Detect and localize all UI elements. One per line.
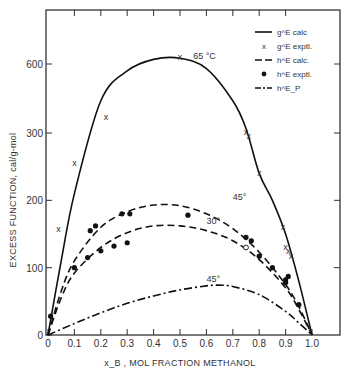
x-tick-label: 1.0 bbox=[305, 338, 319, 349]
dot-marker bbox=[249, 238, 254, 243]
curve-annotation: 65 °C bbox=[193, 51, 216, 61]
x-tick-label: 0.4 bbox=[147, 338, 161, 349]
x-tick-label: 0.3 bbox=[120, 338, 134, 349]
y-axis-label: EXCESS FUNCTION, cal/g-mol bbox=[8, 133, 18, 268]
curve-annotation: 45° bbox=[233, 192, 247, 202]
x-axis-label: x_B , MOL FRACTION METHANOL bbox=[104, 358, 255, 368]
legend-item-label: h^E calc. bbox=[277, 56, 309, 65]
dot-marker bbox=[185, 213, 190, 218]
x-marker: x bbox=[246, 131, 251, 141]
dot-marker bbox=[48, 314, 53, 319]
series-line bbox=[48, 57, 312, 335]
x-marker: x bbox=[257, 168, 262, 178]
curve-annotation: 45° bbox=[206, 274, 220, 284]
legend: g^E calcxg^E exptl.h^E calc.h^E exptl.h^… bbox=[255, 28, 312, 93]
legend-item-label: h^E exptl. bbox=[277, 70, 312, 79]
x-tick-label: 0.9 bbox=[279, 338, 293, 349]
dot-marker bbox=[93, 223, 98, 228]
y-tick-label: 600 bbox=[26, 59, 43, 70]
dot-marker bbox=[286, 274, 291, 279]
legend-item-label: h^E_P bbox=[277, 84, 300, 93]
open-circle-marker bbox=[244, 245, 249, 250]
x-marker: x bbox=[289, 251, 294, 261]
dot-marker bbox=[243, 235, 248, 240]
x-marker: x bbox=[104, 112, 109, 122]
series-layer: xxxxxxxxxxx bbox=[48, 52, 312, 335]
dot-marker bbox=[85, 255, 90, 260]
annotations: 65 °C45°30°45° bbox=[193, 51, 247, 284]
dot-marker bbox=[98, 248, 103, 253]
x-tick-label: 0.1 bbox=[67, 338, 81, 349]
dot-marker bbox=[125, 240, 130, 245]
x-tick-label: 0.5 bbox=[173, 338, 187, 349]
dot-marker bbox=[270, 265, 275, 270]
dot-marker bbox=[72, 265, 77, 270]
x-tick-label: 0.7 bbox=[226, 338, 240, 349]
x-marker: x bbox=[56, 224, 61, 234]
svg-text:x: x bbox=[262, 42, 266, 51]
x-tick-label: 0.8 bbox=[252, 338, 266, 349]
dot-marker bbox=[111, 244, 116, 249]
dot-marker bbox=[119, 211, 124, 216]
x-tick-label: 0.6 bbox=[199, 338, 213, 349]
x-marker: x bbox=[281, 222, 286, 232]
dot-marker bbox=[127, 211, 132, 216]
dot-marker bbox=[88, 228, 93, 233]
x-tick-label: 0.2 bbox=[94, 338, 108, 349]
dot-marker bbox=[296, 302, 301, 307]
legend-item-label: g^E exptl. bbox=[277, 42, 312, 51]
curve-annotation: 30° bbox=[206, 216, 220, 226]
excess-function-chart: 00.10.20.30.40.50.60.70.80.91.0 01002003… bbox=[0, 0, 347, 374]
dot-marker bbox=[257, 254, 262, 259]
y-tick-label: 0 bbox=[37, 330, 43, 341]
y-tick-label: 200 bbox=[26, 195, 43, 206]
x-tick-label: 0 bbox=[45, 338, 51, 349]
y-tick-label: 100 bbox=[26, 263, 43, 274]
series-line bbox=[48, 285, 312, 335]
x-marker: x bbox=[178, 52, 183, 62]
y-tick-label: 300 bbox=[26, 128, 43, 139]
legend-item-label: g^E calc bbox=[277, 28, 307, 37]
x-marker: x bbox=[72, 158, 77, 168]
